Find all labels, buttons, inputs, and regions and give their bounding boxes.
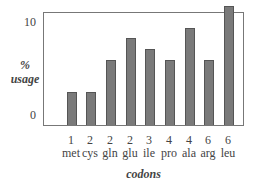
bar-glu — [126, 38, 136, 125]
x-tick-leu: 6leu — [216, 134, 240, 160]
bar-gln — [106, 60, 116, 125]
y-tick-0: 0 — [6, 108, 36, 123]
amino-acid-label: leu — [216, 147, 240, 160]
bar-met — [67, 92, 77, 125]
bar-arg — [204, 60, 214, 125]
y-tick-10: 10 — [6, 15, 36, 30]
y-axis-label: % usage — [6, 58, 44, 86]
bar-cys — [86, 92, 96, 125]
bar-ile — [145, 49, 155, 125]
bar-pro — [165, 60, 175, 125]
x-axis-label: codons — [43, 167, 244, 182]
plot-area — [43, 12, 244, 126]
bar-ala — [185, 28, 195, 125]
y-axis-label-line-2: usage — [6, 72, 44, 86]
bar-leu — [224, 6, 234, 125]
y-axis-label-line-1: % — [6, 58, 44, 72]
